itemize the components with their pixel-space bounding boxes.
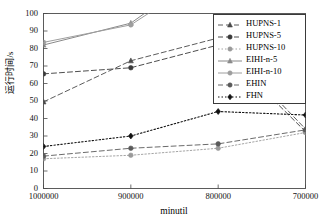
x-axis-label: minutil	[43, 206, 305, 216]
data-point-marker	[228, 47, 232, 51]
x-tick-label: 1000000	[16, 192, 72, 201]
legend: HUPNS-1HUPNS-5HUPNS-10EIHI-n-5EIHI-n-10E…	[213, 14, 306, 104]
legend-swatch	[217, 77, 243, 89]
legend-label: EIHI-n-5	[246, 53, 277, 65]
legend-label: HUPNS-10	[246, 41, 285, 53]
legend-item: FHN	[214, 89, 305, 101]
y-tick-label: 80	[8, 44, 38, 53]
legend-swatch	[217, 65, 243, 77]
legend-swatch	[217, 53, 243, 65]
data-point-marker	[41, 72, 46, 77]
data-point-marker	[129, 65, 134, 70]
legend-swatch	[217, 89, 243, 101]
legend-item: HUPNS-5	[214, 29, 305, 41]
x-tick-label: 700000	[278, 192, 321, 201]
figure: 运行时间/s minutil HUPNS-1HUPNS-5HUPNS-10EIH…	[0, 0, 321, 223]
y-tick-label: 60	[8, 79, 38, 88]
legend-item: HUPNS-1	[214, 17, 305, 29]
y-tick-label: 30	[8, 131, 38, 140]
y-tick-label: 70	[8, 61, 38, 70]
legend-item: EHIN	[214, 77, 305, 89]
x-tick-label: 800000	[190, 192, 246, 201]
legend-swatch	[217, 41, 243, 53]
data-point-marker	[216, 142, 221, 147]
data-point-marker	[41, 40, 46, 45]
data-point-marker	[216, 146, 221, 151]
y-tick-label: 40	[8, 114, 38, 123]
legend-label: FHN	[246, 89, 263, 101]
legend-label: HUPNS-5	[246, 29, 281, 41]
data-point-marker	[228, 35, 232, 39]
data-point-marker	[228, 71, 232, 75]
legend-label: HUPNS-1	[246, 17, 281, 29]
data-point-marker	[41, 154, 46, 159]
legend-label: EHIN	[246, 77, 266, 89]
data-point-marker	[129, 146, 134, 151]
legend-swatch	[217, 17, 243, 29]
y-tick-label: 100	[8, 9, 38, 18]
data-point-marker	[129, 23, 134, 28]
y-tick-label: 90	[8, 26, 38, 35]
data-point-marker	[228, 94, 233, 100]
y-tick-label: 50	[8, 96, 38, 105]
y-tick-label: 20	[8, 149, 38, 158]
legend-item: EIHI-n-5	[214, 53, 305, 65]
x-tick-label: 900000	[103, 192, 159, 201]
data-point-marker	[129, 153, 134, 158]
legend-item: HUPNS-10	[214, 41, 305, 53]
legend-label: EIHI-n-10	[246, 65, 281, 77]
legend-item: EIHI-n-10	[214, 65, 305, 77]
legend-swatch	[217, 29, 243, 41]
data-point-marker	[228, 83, 232, 87]
y-tick-label: 10	[8, 166, 38, 175]
data-point-marker	[303, 128, 308, 133]
